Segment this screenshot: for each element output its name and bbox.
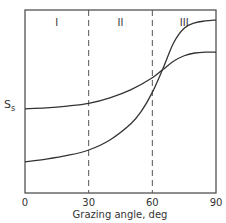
y-axis-label: Ss (4, 98, 15, 113)
x-tick-label-0: 0 (22, 197, 28, 208)
x-tick-label-30: 30 (82, 197, 95, 208)
x-tick-label-90: 90 (210, 197, 223, 208)
plot-frame (25, 10, 216, 193)
x-tick-label-60: 60 (146, 197, 159, 208)
series-line-curve-a (25, 52, 216, 109)
region-label-1: I (55, 17, 58, 28)
y-axis-label-subscript: s (11, 104, 15, 113)
series-line-curve-b (25, 20, 216, 162)
x-axis-label: Grazing angle, deg (73, 209, 168, 220)
chart: IIIIII 0306090 Ss Grazing angle, deg (0, 0, 226, 223)
region-label-2: II (118, 17, 124, 28)
